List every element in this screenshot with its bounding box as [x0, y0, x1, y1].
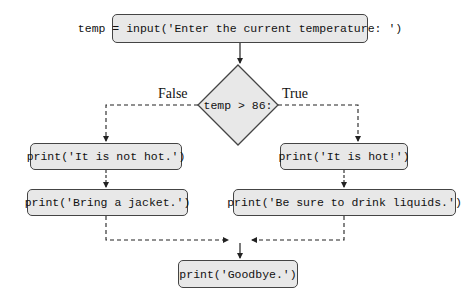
true-label: True: [282, 86, 308, 102]
arrow-merge-left: [106, 216, 228, 240]
decision-text: temp > 86:: [203, 99, 272, 112]
arrow-merge-right: [252, 216, 344, 240]
arrow-false-branch: [106, 105, 198, 141]
false-step-2: print('Bring a jacket.'): [27, 189, 188, 216]
false-label: False: [158, 86, 188, 102]
start-box: temp = input('Enter the current temperat…: [112, 14, 368, 43]
false-step-1: print('It is not hot.'): [30, 143, 182, 170]
arrow-true-branch: [278, 105, 358, 141]
true-step-2: print('Be sure to drink liquids.'): [233, 189, 456, 216]
end-box: print('Goodbye.'): [178, 260, 298, 288]
true-step-1: print('It is hot!'): [280, 143, 408, 170]
